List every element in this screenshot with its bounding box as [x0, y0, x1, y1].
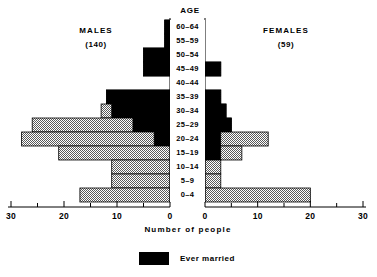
- bar-female-total-0-4: [205, 188, 310, 202]
- bar-male-total-0-4: [80, 188, 170, 202]
- age-label-25-29: 25–29: [170, 118, 205, 132]
- bar-male-total-15-19: [59, 146, 170, 160]
- xtick-label-right-0: 0: [193, 211, 217, 221]
- population-pyramid-figure: AGE MALES (140) FEMALES (59) 60–6455–595…: [0, 0, 377, 277]
- bar-female-married-30-34: [205, 104, 226, 118]
- bar-female-married-45-49: [205, 62, 221, 76]
- age-label-45-49: 45–49: [170, 62, 205, 76]
- bars-group: [22, 20, 311, 202]
- age-label-30-34: 30–34: [170, 104, 205, 118]
- age-label-0-4: 0–4: [170, 188, 205, 202]
- age-label-35-39: 35–39: [170, 90, 205, 104]
- age-label-10-14: 10–14: [170, 160, 205, 174]
- legend-label-ever-married: Ever married: [180, 254, 235, 263]
- legend: Ever married: [139, 252, 235, 265]
- age-label-20-24: 20–24: [170, 132, 205, 146]
- bar-female-married-35-39: [205, 90, 221, 104]
- age-category-column: 60–6455–5950–5445–4940–4435–3930–3425–29…: [170, 20, 205, 202]
- bar-male-total-5-9: [112, 174, 170, 188]
- bar-female-married-20-24: [205, 132, 221, 146]
- age-label-60-64: 60–64: [170, 20, 205, 34]
- bar-male-married-45-49: [144, 62, 171, 76]
- legend-swatch-ever-married: [139, 252, 169, 265]
- bar-female-total-10-14: [205, 160, 221, 174]
- xtick-label-right-30: 30: [351, 211, 375, 221]
- age-label-5-9: 5–9: [170, 174, 205, 188]
- age-label-55-59: 55–59: [170, 34, 205, 48]
- bar-male-married-20-24: [154, 132, 170, 146]
- xtick-label-left-30: 30: [0, 211, 23, 221]
- bar-female-married-25-29: [205, 118, 231, 132]
- bar-female-married-15-19: [205, 146, 221, 160]
- bar-male-married-35-39: [106, 90, 170, 104]
- age-label-50-54: 50–54: [170, 48, 205, 62]
- bar-male-married-50-54: [144, 48, 171, 62]
- x-axis-title: Number of people: [88, 225, 288, 234]
- xtick-label-left-20: 20: [52, 211, 76, 221]
- xtick-label-left-0: 0: [158, 211, 182, 221]
- bar-male-total-20-24: [22, 132, 170, 146]
- xtick-label-right-20: 20: [298, 211, 322, 221]
- age-label-40-44: 40–44: [170, 76, 205, 90]
- bar-male-married-30-34: [112, 104, 170, 118]
- bar-male-married-25-29: [133, 118, 170, 132]
- xtick-label-left-10: 10: [105, 211, 129, 221]
- xtick-label-right-10: 10: [246, 211, 270, 221]
- bar-male-total-10-14: [112, 160, 170, 174]
- age-label-15-19: 15–19: [170, 146, 205, 160]
- bar-female-total-5-9: [205, 174, 221, 188]
